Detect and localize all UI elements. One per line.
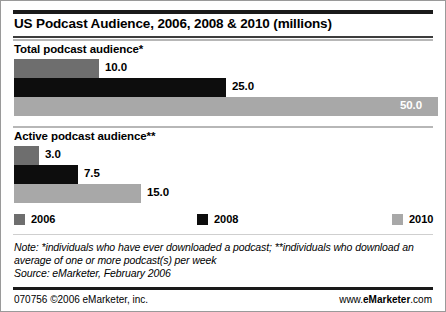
bar-2006-active (14, 146, 39, 165)
bar-value-2010-active: 15.0 (147, 186, 169, 198)
bar-value-2008-total: 25.0 (232, 80, 254, 92)
bar-value-2008-active: 7.5 (84, 167, 100, 179)
bar-2008-active (14, 165, 78, 184)
legend-swatch-2006 (14, 214, 25, 225)
legend-item-2010: 2010 (392, 213, 433, 225)
bar-2010-active (14, 184, 141, 203)
top-rule (13, 10, 433, 14)
bar-2008-total (14, 78, 226, 97)
footer-url-suffix: .com (410, 294, 432, 305)
note-and-source: Note: *individuals who have ever downloa… (14, 241, 432, 280)
section-2-rule (13, 126, 433, 128)
bar-2006-total (14, 59, 99, 78)
section-heading-active: Active podcast audience** (14, 130, 155, 142)
legend-label-2008: 2008 (214, 213, 238, 225)
legend-label-2006: 2006 (31, 213, 55, 225)
footer-website: www.eMarketer.com (339, 294, 432, 305)
bar-2010-total (14, 97, 438, 116)
section-heading-total: Total podcast audience* (14, 43, 143, 55)
footer-url-prefix: www. (339, 294, 363, 305)
bar-value-2006-total: 10.0 (105, 61, 127, 73)
emarketer-chart-card: US Podcast Audience, 2006, 2008 & 2010 (… (0, 0, 446, 312)
legend-label-2010: 2010 (409, 213, 433, 225)
source-text: Source: eMarketer, February 2006 (14, 267, 171, 279)
note-divider-rule (13, 234, 433, 235)
legend-swatch-2010 (392, 214, 403, 225)
legend-item-2006: 2006 (14, 213, 55, 225)
note-text: Note: *individuals who have ever downloa… (14, 241, 414, 266)
bar-value-2006-active: 3.0 (45, 148, 61, 160)
chart-inner: US Podcast Audience, 2006, 2008 & 2010 (… (1, 1, 445, 311)
bar-value-2010-total: 50.0 (400, 99, 422, 111)
page-title: US Podcast Audience, 2006, 2008 & 2010 (… (14, 16, 434, 31)
footer-rule (13, 287, 433, 290)
footer-url-brand: eMarketer (363, 294, 410, 305)
footer-copyright: 070756 ©2006 eMarketer, inc. (14, 294, 148, 305)
legend-item-2008: 2008 (197, 213, 238, 225)
section-1-rule (13, 39, 433, 41)
title-underline-rule (13, 36, 433, 38)
legend-swatch-2008 (197, 214, 208, 225)
